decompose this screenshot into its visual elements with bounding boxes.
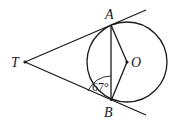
tangent-line-ta [25,10,146,62]
angle-label: 67° [92,80,109,94]
label-o: O [131,55,141,70]
radius-ob [111,62,127,101]
geometry-diagram: T A B O 67° [0,0,177,122]
point-t [23,60,26,63]
radius-oa [111,25,127,62]
point-o [125,60,128,63]
label-t: T [11,55,20,70]
tangent-line-tb [25,62,146,115]
label-b: B [104,105,113,120]
label-a: A [104,7,114,22]
